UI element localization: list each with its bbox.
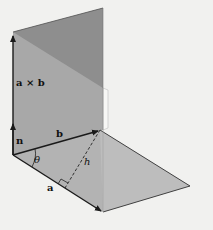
vector-a-label: a bbox=[47, 182, 54, 193]
normal-label: n bbox=[16, 135, 24, 146]
cross-product-diagram: a × b n b a θ h bbox=[0, 0, 213, 230]
cross-product-label: a × b bbox=[16, 77, 45, 88]
plane-edge-strip bbox=[103, 88, 108, 130]
height-label: h bbox=[84, 156, 90, 167]
vector-b-label: b bbox=[56, 128, 63, 139]
diagram-canvas: a × b n b a θ h bbox=[0, 0, 213, 230]
angle-label: θ bbox=[34, 154, 40, 165]
